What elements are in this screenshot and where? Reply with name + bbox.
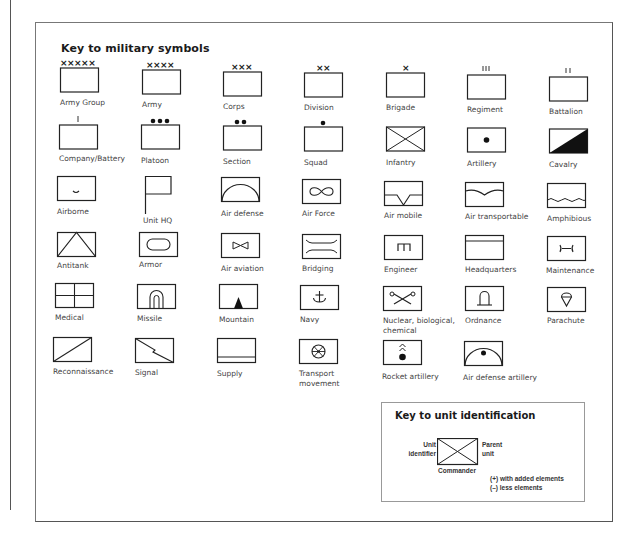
- page-margin-line: [10, 0, 11, 510]
- symbol-armor: Armor: [139, 232, 229, 282]
- symbol-artillery: Artillery: [467, 113, 557, 163]
- airborne-icon: [57, 176, 97, 206]
- symbol-transport-movement: Transport movement: [299, 339, 389, 389]
- parent-unit-label: unit: [482, 450, 494, 458]
- company-icon: [59, 113, 99, 153]
- symbol-squad: Squad: [304, 113, 394, 163]
- air-force-infinity-icon: [302, 179, 342, 209]
- regiment-icon: [467, 56, 507, 92]
- unit-key-infantry-icon: [437, 438, 479, 466]
- amphibious-wave-icon: [547, 183, 587, 213]
- infantry-cross-icon: [386, 113, 426, 153]
- symbol-air-aviation: Air aviation: [221, 233, 311, 283]
- corps-icon: ×××: [223, 56, 263, 92]
- ordnance-bomb-icon: [465, 286, 505, 316]
- symbol-missile: Missile: [137, 284, 227, 334]
- symbol-signal: Signal: [135, 338, 225, 388]
- unit-hq-flag-icon: [145, 176, 185, 216]
- commander-label: Commander: [438, 467, 476, 475]
- division-icon: ××: [304, 56, 344, 92]
- unit-label-line1: Unit: [420, 441, 436, 449]
- air-defense-arc-icon: [221, 177, 261, 207]
- squad-icon: [304, 113, 344, 153]
- symbol-air-mobile: Air mobile: [384, 181, 474, 231]
- symbol-brigade: × Brigade: [386, 56, 476, 106]
- section-icon: [223, 113, 263, 153]
- symbol-air-force: Air Force: [302, 179, 392, 229]
- symbol-company-battery: Company/Battery: [59, 113, 149, 163]
- symbol-nbc: Nuclear, biological, chemical: [383, 286, 473, 336]
- air-aviation-bowtie-icon: [221, 233, 261, 263]
- symbol-navy: Navy: [300, 285, 390, 335]
- symbol-antitank: Antitank: [57, 232, 147, 282]
- symbol-mountain: Mountain: [219, 284, 309, 334]
- symbol-reconnaissance: Reconnaissance: [53, 337, 143, 387]
- bridging-icon: [302, 234, 342, 264]
- medical-cross-icon: [55, 283, 95, 313]
- symbol-platoon: Platoon: [141, 113, 231, 163]
- note-less-elements: (–) less elements: [490, 484, 542, 492]
- symbol-supply: Supply: [217, 338, 307, 388]
- air-defense-artillery-icon: [464, 341, 504, 371]
- supply-icon: [217, 338, 257, 368]
- headquarters-icon: [465, 235, 505, 265]
- unit-identification-key: Key to unit identification Unit identifi…: [381, 402, 585, 502]
- air-transportable-icon: [465, 182, 505, 212]
- rocket-artillery-icon: [383, 340, 423, 370]
- parent-label-line1: Parent: [482, 441, 502, 449]
- symbol-infantry: Infantry: [386, 113, 476, 163]
- symbol-engineer: Engineer: [384, 235, 474, 285]
- symbol-air-defense-artillery: Air defense artillery: [464, 341, 554, 391]
- signal-lightning-icon: [135, 338, 175, 368]
- symbol-air-defense: Air defense: [221, 177, 311, 227]
- svg-text:×××: ×××: [231, 62, 252, 72]
- symbol-army: ×××× Army: [142, 56, 232, 106]
- symbol-cavalry: Cavalry: [549, 113, 634, 163]
- maintenance-wrench-icon: [547, 236, 587, 266]
- reconnaissance-diagonal-icon: [53, 337, 93, 367]
- symbol-division: ×× Division: [304, 56, 394, 106]
- engineer-icon: [384, 235, 424, 265]
- platoon-icon: [141, 113, 181, 153]
- unit-identifier-label: identifier: [404, 450, 436, 458]
- nbc-icon: [383, 286, 423, 316]
- symbol-corps: ××× Corps: [223, 56, 313, 106]
- armor-oval-icon: [139, 232, 179, 262]
- battalion-icon: [549, 56, 589, 92]
- symbol-section: Section: [223, 113, 313, 163]
- symbol-medical: Medical: [55, 283, 145, 333]
- symbol-ordnance: Ordnance: [465, 286, 555, 336]
- navy-anchor-icon: [300, 285, 340, 315]
- army-icon: ××××: [142, 56, 182, 92]
- symbol-rocket-artillery: Rocket artillery: [383, 340, 473, 390]
- symbol-bridging: Bridging: [302, 234, 392, 284]
- transport-wheel-icon: [299, 339, 339, 369]
- symbol-air-transportable: Air transportable: [465, 182, 555, 232]
- legend-title: Key to military symbols: [61, 42, 210, 55]
- note-added-elements: (+) with added elements: [490, 475, 564, 483]
- symbol-regiment: Regiment: [467, 56, 557, 106]
- symbol-maintenance: Maintenance: [547, 236, 634, 286]
- mountain-triangle-icon: [219, 284, 259, 314]
- parachute-icon: [547, 287, 587, 317]
- svg-text:××××: ××××: [146, 60, 174, 70]
- svg-text:××: ××: [316, 63, 330, 73]
- symbol-amphibious: Amphibious: [547, 183, 634, 233]
- artillery-dot-icon: [467, 113, 507, 153]
- svg-text:×××××: ×××××: [60, 58, 95, 68]
- brigade-icon: ×: [386, 56, 426, 92]
- svg-text:×: ×: [402, 63, 410, 73]
- cavalry-diagonal-icon: [549, 113, 589, 153]
- symbol-airborne: Airborne: [57, 176, 147, 226]
- air-mobile-icon: [384, 181, 424, 211]
- symbol-parachute: Parachute: [547, 287, 634, 337]
- antitank-triangle-icon: [57, 232, 97, 262]
- symbol-battalion: Battalion: [549, 56, 634, 106]
- symbol-army-group: ××××× Army Group: [60, 56, 150, 106]
- army-group-icon: ×××××: [60, 56, 100, 92]
- missile-icon: [137, 284, 177, 314]
- unit-key-title: Key to unit identification: [395, 410, 535, 421]
- symbol-headquarters: Headquarters: [465, 235, 555, 285]
